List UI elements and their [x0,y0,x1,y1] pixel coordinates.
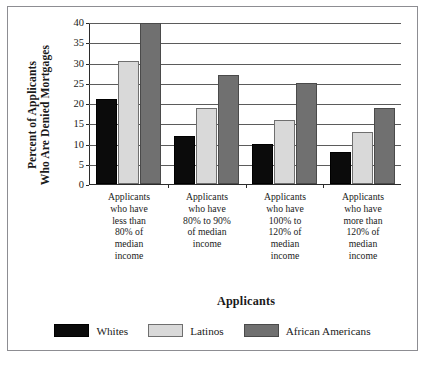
bar-group [168,23,246,184]
x-axis-category-label: Applicantswho haveless than80% ofmediani… [90,191,168,262]
category-label-line: median [326,238,400,250]
category-label-line: income [248,250,322,262]
category-label-line: who have [92,203,166,215]
legend-swatch-african [244,324,279,337]
bar-latinos [274,120,295,184]
y-axis-tick-mark [86,64,89,65]
plot-area: 0510152025303540 [89,23,401,185]
y-axis-tick-mark [86,23,89,24]
bar-group [90,23,168,184]
x-axis-title: Applicants [90,294,402,309]
bar-latinos [118,61,139,184]
y-axis-tick-label: 25 [74,79,85,90]
category-label-line: 80% of [92,226,166,238]
legend-item: Latinos [148,324,224,337]
category-label-line: of median [170,226,244,238]
legend-label: Latinos [190,325,224,337]
bar-african [374,108,395,184]
legend-swatch-whites [54,324,89,337]
category-label-line: median [92,238,166,250]
category-label-line: Applicants [170,191,244,203]
category-label-line: 80% to 90% [170,215,244,227]
x-axis-tick-mark [323,184,324,188]
bar-latinos [196,108,217,184]
category-label-line: income [170,238,244,250]
y-axis-tick-mark [86,84,89,85]
x-axis-tick-mark [168,184,169,188]
x-axis-tick-mark [246,184,247,188]
category-label-line: who have [170,203,244,215]
bar-whites [252,144,273,184]
y-axis-tick-label: 20 [74,99,85,110]
bar-group [246,23,324,184]
bar-whites [330,152,351,184]
y-axis-tick-mark [86,165,89,166]
y-axis-tick-label: 5 [79,160,84,171]
category-label-line: 100% to [248,215,322,227]
bar-series-container [90,23,401,184]
legend-label: Whites [96,325,128,337]
category-label-line: 120% of [326,226,400,238]
category-label-line: income [326,250,400,262]
category-label-line: 120% of [248,226,322,238]
y-axis-tick-mark [86,124,89,125]
y-axis-tick-mark [86,43,89,44]
legend-item: Whites [54,324,128,337]
chart-figure: Percent of Applicants Who Are Denied Mor… [7,6,418,351]
bar-latinos [352,132,373,184]
bar-african [140,23,161,184]
y-axis-tick-label: 10 [74,139,85,150]
y-axis-tick-label: 30 [74,58,85,69]
bar-whites [174,136,195,184]
y-axis-title-line-1: Percent of Applicants [25,61,39,169]
category-label-line: Applicants [326,191,400,203]
x-axis-category-labels: Applicantswho haveless than80% ofmediani… [90,191,402,262]
y-axis-title: Percent of Applicants Who Are Denied Mor… [19,23,59,208]
y-axis-title-line-2: Who Are Denied Mortgages [39,45,53,185]
legend-swatch-latinos [148,324,183,337]
y-axis-tick-mark [86,145,89,146]
category-label-line: more than [326,215,400,227]
y-axis-tick-label: 0 [79,180,84,191]
category-label-line: income [92,250,166,262]
category-label-line: median [248,238,322,250]
bar-african [218,75,239,184]
y-axis-tick-label: 40 [74,18,85,29]
bar-group [323,23,401,184]
category-label-line: less than [92,215,166,227]
y-axis-tick-label: 15 [74,119,85,130]
chart-legend: WhitesLatinosAfrican Americans [8,324,417,337]
category-label-line: Applicants [248,191,322,203]
x-axis-category-label: Applicantswho have80% to 90%of medianinc… [168,191,246,262]
x-axis-category-label: Applicantswho havemore than120% ofmedian… [324,191,402,262]
y-axis-tick-label: 35 [74,38,85,49]
legend-item: African Americans [244,324,371,337]
category-label-line: who have [248,203,322,215]
legend-label: African Americans [286,325,371,337]
y-axis-tick-mark [86,185,89,186]
category-label-line: who have [326,203,400,215]
bar-whites [96,99,117,184]
category-label-line: Applicants [92,191,166,203]
y-axis-tick-mark [86,104,89,105]
bar-african [296,83,317,184]
x-axis-category-label: Applicantswho have100% to120% ofmedianin… [246,191,324,262]
